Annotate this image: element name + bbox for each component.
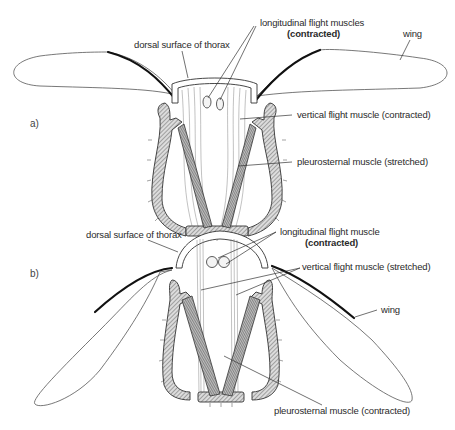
panel-a-longitudinal-muscle-xsection-left	[203, 96, 211, 108]
panel-b-label-longitudinal-state: (contracted)	[305, 237, 358, 248]
panel-a-label: a)	[30, 118, 39, 129]
panel-a-label-longitudinal-state: (contracted)	[287, 28, 340, 39]
panel-b-label-vertical-muscle: vertical flight muscle (stretched)	[302, 261, 430, 272]
panel-a-dorsal-surface	[172, 78, 257, 103]
panel-b-right-wing	[272, 266, 412, 402]
panel-b-longitudinal-muscle-xsection-right	[219, 257, 230, 268]
panel-b-label-longitudinal: longitudinal flight muscle	[280, 226, 380, 237]
panel-a-label-pleurosternal-muscle: pleurosternal muscle (stretched)	[297, 156, 428, 167]
panel-a-left-pleuron	[152, 103, 186, 236]
panel-a-label-vertical-muscle: vertical flight muscle (contracted)	[297, 109, 431, 120]
panel-b-left-wing	[34, 268, 172, 406]
panel-b-right-pleurosternal-muscle	[222, 296, 260, 396]
panel-b-label-dorsal-surface: dorsal surface of thorax	[86, 229, 182, 240]
panel-a-left-wing	[14, 52, 176, 100]
panel-a-label-wing: wing	[402, 28, 422, 39]
thorax-flight-muscle-diagram: a)	[0, 0, 455, 430]
panel-a-right-wing	[256, 49, 447, 100]
panel-a-right-pleuron	[248, 103, 282, 236]
panel-b-label: b)	[30, 268, 39, 279]
panel-b-label-wing: wing	[380, 304, 400, 315]
panel-b-sternum	[198, 392, 244, 402]
panel-b-label-pleurosternal-muscle: pleurosternal muscle (contracted)	[274, 405, 410, 416]
panel-a-label-dorsal-surface: dorsal surface of thorax	[134, 39, 230, 50]
panel-b-longitudinal-muscle-xsection-left	[207, 257, 218, 268]
panel-b: b)	[30, 226, 430, 416]
panel-a: a)	[14, 17, 447, 241]
panel-a-label-longitudinal: longitudinal flight muscles	[260, 17, 365, 28]
